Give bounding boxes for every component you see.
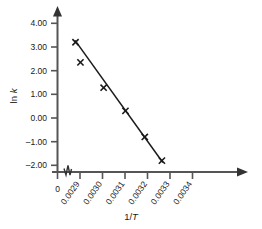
y-tick-label-0: 0.00	[30, 113, 47, 123]
y-tick-label-3: 3.00	[30, 42, 47, 52]
y-tick-label-1: 1.00	[30, 89, 47, 99]
x-tick-label-origin: 0	[55, 184, 60, 194]
arrhenius-plot: 4.00 3.00 2.00 1.00 0.00 –1.00 –2.00 0 0…	[0, 0, 262, 229]
y-tick-label-neg2: –2.00	[26, 160, 48, 170]
chart-svg: 4.00 3.00 2.00 1.00 0.00 –1.00 –2.00 0 0…	[0, 0, 262, 229]
x-axis-title: 1/T	[124, 211, 139, 222]
y-tick-label-2: 2.00	[30, 66, 47, 76]
y-axis-title-prefix: ln	[8, 93, 19, 103]
y-axis-title: ln k	[8, 87, 19, 103]
y-tick-label-4: 4.00	[30, 18, 47, 28]
y-tick-label-neg1: –1.00	[26, 137, 48, 147]
